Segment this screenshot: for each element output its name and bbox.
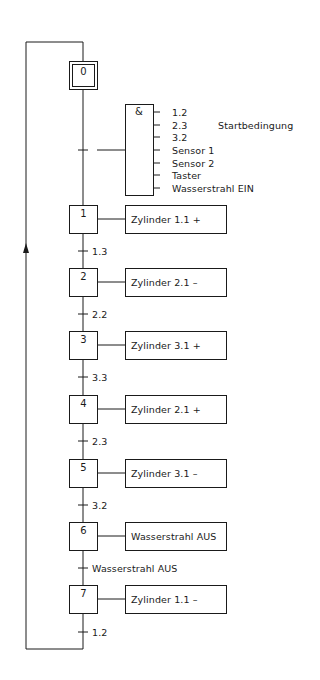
step-action: Wasserstrahl AUS (131, 531, 216, 542)
step-action: Zylinder 1.1 + (131, 214, 201, 225)
step-number: 1 (69, 208, 98, 219)
transition-label: 3.2 (92, 500, 107, 511)
step-number: 6 (69, 525, 98, 536)
and-input: 1.2 (172, 107, 187, 118)
and-input: Taster (172, 170, 201, 181)
start-condition-label: Startbedingung (218, 120, 293, 131)
and-input: 3.2 (172, 132, 187, 143)
step-action: Zylinder 2.1 – (131, 277, 198, 288)
step-action: Zylinder 3.1 – (131, 468, 198, 479)
step-number: 3 (69, 334, 98, 345)
and-input: Wasserstrahl EIN (172, 183, 254, 194)
transition-label: 1.2 (92, 627, 107, 638)
step-number: 7 (69, 588, 98, 599)
step-action: Zylinder 2.1 + (131, 404, 201, 415)
and-operator: & (135, 106, 143, 117)
and-input: 2.3 (172, 120, 187, 131)
step-number: 4 (69, 398, 98, 409)
arrow-up-icon (23, 243, 29, 253)
step-0-number: 0 (69, 66, 98, 77)
transition-label: 2.2 (92, 309, 107, 320)
and-input: Sensor 1 (172, 145, 214, 156)
transition-label: 3.3 (92, 372, 107, 383)
step-number: 5 (69, 462, 98, 473)
transition-label: 2.3 (92, 436, 107, 447)
transition-label: Wasserstrahl AUS (92, 563, 177, 574)
step-number: 2 (69, 271, 98, 282)
transition-label: 1.3 (92, 246, 107, 257)
step-action: Zylinder 1.1 – (131, 594, 198, 605)
step-action: Zylinder 3.1 + (131, 340, 201, 351)
and-input: Sensor 2 (172, 158, 214, 169)
